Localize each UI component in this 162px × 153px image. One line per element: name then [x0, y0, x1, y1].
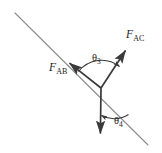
force-label-f-ab: FAB [49, 62, 67, 76]
force-label-f-ac-sub: AC [133, 34, 144, 43]
vector-downward [100, 88, 101, 134]
angle-label-theta4-sub: 4 [119, 120, 123, 129]
force-diagram-canvas [0, 0, 162, 153]
force-diagram-figure: FAB FAC θ3 θ4 [0, 0, 162, 153]
force-label-f-ac: FAC [126, 29, 144, 43]
force-label-f-ab-sub: AB [56, 67, 67, 76]
angle-label-theta3-sub: 3 [97, 57, 101, 66]
vector-f-ab [70, 63, 102, 88]
angle-label-theta3: θ3 [92, 53, 101, 66]
angle-label-theta4: θ4 [114, 116, 123, 129]
vector-f-ac [101, 51, 126, 89]
